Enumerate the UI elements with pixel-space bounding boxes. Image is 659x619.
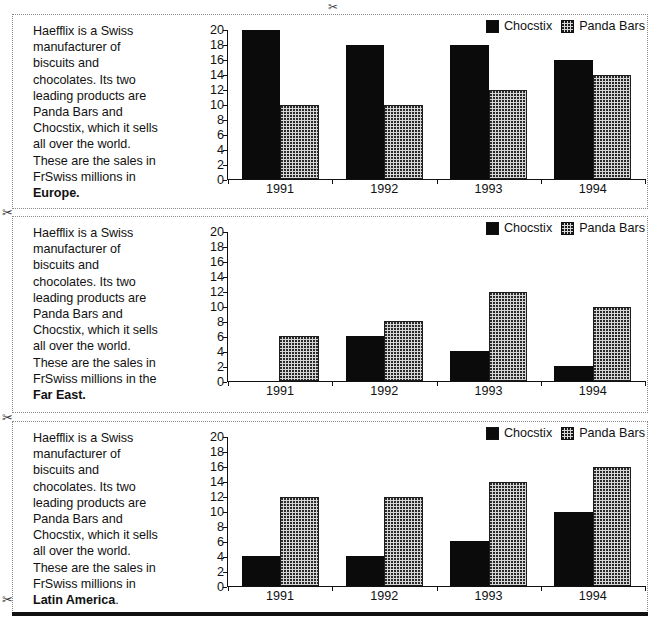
x-axis-label-1991: 1991: [228, 182, 332, 196]
y-axis-tick-mark: [223, 135, 227, 136]
bar-panda-bars-1991: [280, 105, 319, 180]
x-axis-label-1994: 1994: [541, 182, 645, 196]
bar-group-1994: [541, 437, 645, 586]
description-line: biscuits and: [33, 258, 99, 272]
description-line: FrSwiss millions in: [33, 170, 136, 184]
x-axis-label-1994: 1994: [541, 589, 645, 603]
description-line: all over the world.: [33, 137, 131, 151]
x-axis-label-1991: 1991: [228, 384, 332, 398]
bar-group-1992: [332, 232, 436, 381]
y-axis-tick-mark: [223, 512, 227, 513]
y-axis-tick-mark: [223, 587, 227, 588]
description-line: biscuits and: [33, 56, 99, 70]
description-line: biscuits and: [33, 463, 99, 477]
bar-pair: [346, 232, 423, 381]
bar-group-1993: [437, 437, 541, 586]
scissors-icon: ✂: [2, 411, 13, 424]
description-line: chocolates. Its two: [33, 73, 136, 87]
description-line: These are the sales in: [33, 356, 156, 370]
bar-pair: [346, 30, 423, 179]
x-axis-label-1994: 1994: [541, 384, 645, 398]
y-axis-tick-mark: [223, 482, 227, 483]
y-axis-tick-mark: [223, 292, 227, 293]
bar-chocstix-1993: [450, 541, 489, 586]
y-axis-tick-mark: [223, 467, 227, 468]
description-line: all over the world.: [33, 544, 131, 558]
description-line: all over the world.: [33, 339, 131, 353]
bar-chocstix-1992: [346, 336, 385, 381]
bar-group-1993: [437, 232, 541, 381]
description-line: Panda Bars and: [33, 105, 123, 119]
info-gap-panel-latin-america: Haefflix is a Swissmanufacturer ofbiscui…: [12, 421, 648, 613]
bar-chart: ChocstixPanda Bars2018161412108642019911…: [199, 19, 647, 205]
y-axis-tick-mark: [223, 120, 227, 121]
x-axis-label-1992: 1992: [332, 182, 436, 196]
panel-description-text: Haefflix is a Swissmanufacturer ofbiscui…: [33, 23, 195, 201]
description-line: leading products are: [33, 496, 146, 510]
y-axis-tick-mark: [223, 30, 227, 31]
y-axis-tick-mark: [223, 367, 227, 368]
bar-pair: [242, 232, 319, 381]
bar-panda-bars-1994: [593, 75, 632, 179]
y-axis-tick-mark: [223, 45, 227, 46]
description-line: These are the sales in: [33, 154, 156, 168]
y-axis-tick-mark: [223, 165, 227, 166]
scissors-icon: ✂: [328, 1, 338, 13]
description-line: manufacturer of: [33, 242, 120, 256]
region-name: Latin America: [33, 593, 115, 607]
x-axis-ticks: [228, 586, 645, 587]
y-axis-tick-mark: [223, 497, 227, 498]
bar-group-1994: [541, 30, 645, 179]
x-axis-tick-mark: [645, 586, 646, 591]
x-axis-label-1991: 1991: [228, 589, 332, 603]
bar-panda-bars-1993: [489, 90, 528, 179]
y-axis-tick-mark: [223, 452, 227, 453]
description-line: chocolates. Its two: [33, 275, 136, 289]
y-axis-tick-mark: [223, 437, 227, 438]
description-line: Chocstix, which it sells: [33, 323, 158, 337]
bar-chocstix-1993: [450, 45, 489, 179]
x-axis-labels: 1991199219931994: [228, 589, 645, 603]
bar-pair: [242, 30, 319, 179]
y-axis-tick-mark: [223, 572, 227, 573]
bar-panda-bars-1992: [384, 497, 423, 586]
y-axis-tick-mark: [223, 105, 227, 106]
bottom-divider-rule: [12, 612, 648, 616]
description-line: Chocstix, which it sells: [33, 528, 158, 542]
region-name: Far East.: [33, 388, 86, 402]
bar-chart: ChocstixPanda Bars2018161412108642019911…: [199, 221, 647, 407]
bar-group-1993: [437, 30, 541, 179]
bar-chart: ChocstixPanda Bars2018161412108642019911…: [199, 426, 647, 612]
y-axis-tick-mark: [223, 90, 227, 91]
x-axis-label-1992: 1992: [332, 384, 436, 398]
bar-chocstix-1992: [346, 45, 385, 179]
bar-chocstix-1993: [450, 351, 489, 381]
y-axis-tick-mark: [223, 75, 227, 76]
bar-pair: [554, 437, 631, 586]
bar-group-1992: [332, 437, 436, 586]
panel-description-text: Haefflix is a Swissmanufacturer ofbiscui…: [33, 430, 195, 608]
description-line: Haefflix is a Swiss: [33, 431, 133, 445]
bar-chocstix-1991: [242, 556, 281, 586]
description-line: Haefflix is a Swiss: [33, 24, 133, 38]
bar-group-1992: [332, 30, 436, 179]
x-axis-label-1993: 1993: [437, 384, 541, 398]
bar-chocstix-1994: [554, 512, 593, 587]
y-axis-tick-mark: [223, 352, 227, 353]
description-line: Panda Bars and: [33, 512, 123, 526]
bar-pair: [554, 30, 631, 179]
scissors-icon: ✂: [2, 593, 13, 606]
region-trailing-punctuation: .: [115, 593, 118, 607]
bar-pair: [242, 437, 319, 586]
description-line: FrSwiss millions in: [33, 577, 136, 591]
y-axis-tick-mark: [223, 262, 227, 263]
bar-chocstix-1991: [242, 30, 281, 179]
x-axis-label-1993: 1993: [437, 182, 541, 196]
bar-panda-bars-1994: [593, 307, 632, 382]
worksheet: ✂ Haefflix is a Swissmanufacturer ofbisc…: [0, 0, 659, 619]
description-line: Haefflix is a Swiss: [33, 226, 133, 240]
description-line: leading products are: [33, 89, 146, 103]
bar-group-1991: [228, 437, 332, 586]
bar-panda-bars-1992: [384, 105, 423, 180]
y-axis-tick-mark: [223, 542, 227, 543]
